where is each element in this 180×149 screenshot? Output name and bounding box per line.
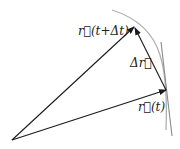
vector-r-t — [12, 90, 166, 140]
label-delta-r: Δr⃗ — [129, 56, 152, 70]
vector-r-t-plus-dt — [12, 27, 134, 140]
label-r-t: r⃗(t) — [138, 100, 165, 114]
displacement-vector-diagram: r⃗(t+Δt) Δr⃗ r⃗(t) — [0, 0, 180, 149]
label-r-t-plus-dt: r⃗(t+Δt) — [78, 24, 129, 38]
